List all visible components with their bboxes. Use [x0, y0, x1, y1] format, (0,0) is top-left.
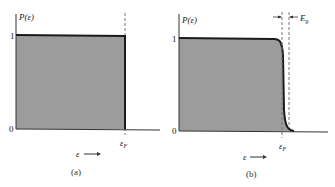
y-tick-0-b: 0: [172, 126, 177, 136]
y-tick-0-a: 0: [9, 124, 14, 134]
width-arrows-icon: [273, 16, 298, 19]
x-axis-label-a: ε: [76, 149, 80, 159]
x-axis-label-b: ε: [243, 152, 247, 162]
y-tick-1-b: 1: [172, 34, 177, 44]
occupied-region-b: [179, 38, 292, 131]
panel-a: P(ε) 1 0 εF ε (a): [9, 12, 160, 177]
x-axis-b: [179, 131, 328, 132]
x-axis-a: [16, 129, 160, 130]
caption-b: (b): [246, 169, 257, 179]
y-tick-1-a: 1: [10, 31, 15, 41]
caption-a: (a): [71, 167, 81, 177]
panel-b: Eg P(ε) 1 0 εF ε (b): [172, 12, 328, 179]
arrow-right-icon: [84, 152, 101, 156]
fermi-label-a: εF: [120, 138, 128, 149]
figure: P(ε) 1 0 εF ε (a) Eg P(ε) 1: [0, 0, 335, 187]
arrow-right-icon: [250, 155, 267, 159]
y-axis-label-b: P(ε): [181, 15, 197, 25]
width-label-b: Eg: [299, 13, 309, 24]
occupied-region-a: [16, 35, 125, 129]
step-top-a: [16, 35, 125, 36]
y-axis-label-a: P(ε): [18, 12, 34, 22]
fermi-label-b: εF: [279, 141, 287, 152]
